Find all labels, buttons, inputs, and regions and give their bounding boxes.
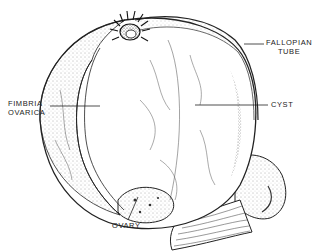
label-fallopian-tube-line2: TUBE [266,48,312,57]
label-fallopian-tube: FALLOPIAN TUBE [266,39,312,56]
ovary [118,187,174,222]
label-cyst: CYST [271,101,293,110]
illustration: FALLOPIAN TUBE FIMBRIA OVARICA CYST OVAR… [0,0,320,252]
label-fimbria-ovarica: FIMBRIA OVARICA [8,100,45,117]
label-ovary: OVARY [112,222,141,231]
label-fimbria-ovarica-line2: OVARICA [8,109,45,118]
